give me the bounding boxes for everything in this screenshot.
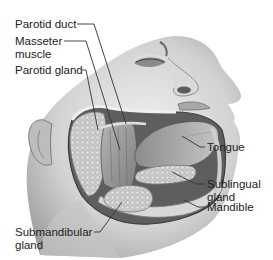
label-mandible: Mandible: [207, 201, 254, 214]
label-parotid-duct: Parotid duct: [15, 18, 76, 31]
label-text-line1: Masseter: [15, 35, 62, 48]
label-parotid-gland: Parotid gland: [15, 64, 83, 77]
label-text-line1: Submandibular: [15, 226, 92, 239]
label-text: Parotid duct: [15, 18, 76, 30]
label-text-line2: muscle: [15, 48, 62, 61]
label-masseter-muscle: Masseter muscle: [15, 35, 62, 61]
label-tongue: Tongue: [207, 141, 245, 154]
label-submandibular-gland: Submandibular gland: [15, 226, 92, 252]
label-text: Parotid gland: [15, 64, 83, 76]
label-text: Tongue: [207, 141, 245, 153]
label-text-line1: Sublingual: [207, 178, 261, 191]
label-text: Mandible: [207, 201, 254, 213]
label-text-line2: gland: [15, 239, 92, 252]
anatomy-diagram: Parotid duct Masseter muscle Parotid gla…: [0, 0, 273, 260]
masseter-muscle-shape: [101, 122, 137, 190]
